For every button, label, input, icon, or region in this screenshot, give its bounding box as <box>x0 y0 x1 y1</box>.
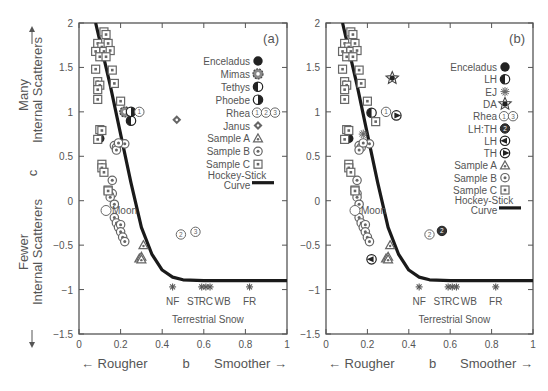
svg-text:2: 2 <box>264 109 268 116</box>
legend-marker <box>253 95 262 104</box>
legend-label: Phoebe <box>216 95 251 106</box>
data-point-sample-b <box>114 139 122 147</box>
y-tick-label: −1.5 <box>300 329 320 340</box>
x-tick-label: 0.4 <box>402 339 416 350</box>
data-point-sample-c <box>341 135 349 143</box>
legend-label: Rhea <box>226 108 250 119</box>
legend-marker <box>500 62 509 71</box>
data-point-sample-c <box>347 168 355 176</box>
x-tick-label: 0 <box>76 339 82 350</box>
x-label-smoother: Smoother → <box>214 356 287 371</box>
data-point-sample-c <box>98 127 106 135</box>
y-axis-title: c <box>25 169 40 176</box>
legend-marker <box>253 82 262 91</box>
x-label-smoother: Smoother → <box>460 356 533 371</box>
legend-marker <box>500 148 509 157</box>
data-point-tethys <box>126 116 135 125</box>
snow-label-fr: FR <box>243 296 256 307</box>
y-tick-label: 0.5 <box>59 151 73 162</box>
data-point-sample-b <box>353 176 361 184</box>
x-tick-label: 1 <box>284 339 290 350</box>
legend-label: Curve <box>224 180 251 191</box>
data-point-lh-left- <box>367 255 376 264</box>
y-label-fewer: Fewer <box>16 233 31 270</box>
data-point-sample-c <box>94 86 102 94</box>
snow-label-nf: NF <box>412 296 425 307</box>
data-point-sample-c <box>117 97 125 105</box>
terrestrial-snow-label: Terrestrial Snow <box>172 314 244 325</box>
svg-text:3: 3 <box>511 113 515 120</box>
svg-text:2: 2 <box>440 227 444 234</box>
data-point-terrestrial-snow <box>492 283 499 290</box>
snow-label-wb: WB <box>214 296 230 307</box>
legend-marker <box>499 97 511 109</box>
x-tick-label: 0.2 <box>114 339 128 350</box>
legend-marker <box>254 147 262 155</box>
panel-label: (b) <box>509 31 525 46</box>
legend-label: Sample C <box>206 159 250 170</box>
y-tick-label: 0 <box>67 196 73 207</box>
legend-label: Sample A <box>207 133 250 144</box>
svg-text:1: 1 <box>138 108 142 115</box>
snow-label-rc: RC <box>199 296 213 307</box>
data-point-sample-c <box>339 65 347 73</box>
figure: Many Internal Scatterers c Fewer Interna… <box>0 0 548 391</box>
data-point-terrestrial-snow <box>416 283 423 290</box>
legend-marker: 1 <box>499 112 508 121</box>
legend-marker <box>501 186 509 194</box>
x-label-rougher: ← Rougher <box>328 356 395 371</box>
legend-curve-swatch <box>252 181 274 184</box>
data-point-moon <box>101 205 111 215</box>
legend-marker <box>501 87 510 96</box>
data-point-sample-c <box>102 53 110 61</box>
data-point-lh-half- <box>367 108 376 117</box>
legend-marker <box>253 56 262 65</box>
moon-label: Moon <box>361 205 386 216</box>
data-point-sample-c <box>363 97 371 105</box>
x-axis-title: b <box>429 356 436 371</box>
data-point-sample-c <box>341 86 349 94</box>
legend-marker <box>254 134 263 142</box>
y-tick-label: −1 <box>62 285 74 296</box>
x-label-rougher: ← Rougher <box>81 356 148 371</box>
legend-marker <box>254 160 262 168</box>
legend-marker <box>501 174 509 182</box>
svg-text:2: 2 <box>428 231 432 238</box>
legend-label: Janus <box>223 121 250 132</box>
snow-label-wb: WB <box>461 296 477 307</box>
data-point-sample-c <box>349 53 357 61</box>
data-point-janus <box>172 115 181 124</box>
data-point-rhea: 3 <box>191 227 200 236</box>
x-tick-label: 0 <box>323 339 329 350</box>
data-point-lh-th: 2 <box>437 226 446 235</box>
panel-label: (a) <box>263 31 279 46</box>
legend-label: Sample B <box>454 173 498 184</box>
panel-a: 00.20.40.60.81−1.5−1−0.500.511.52123Moon… <box>53 18 290 371</box>
legend-label: Rhea <box>473 111 497 122</box>
data-point-sample-c <box>104 187 112 195</box>
y-tick-label: 2 <box>67 18 73 29</box>
y-label-internal-bottom: Internal Scatterers <box>30 198 45 305</box>
data-point-sample-c <box>349 31 357 39</box>
legend-label: TH <box>484 148 497 159</box>
y-label-internal-top: Internal Scatterers <box>30 36 45 143</box>
data-point-terrestrial-snow <box>246 283 253 290</box>
y-tick-label: 1.5 <box>59 62 73 73</box>
data-point-rhea: 1 <box>135 107 144 116</box>
y-tick-label: 2 <box>314 18 320 29</box>
legend-marker <box>253 69 263 79</box>
legend-label: LH <box>484 74 497 85</box>
snow-label-rc: RC <box>445 296 459 307</box>
svg-text:1: 1 <box>384 108 388 115</box>
data-point-sample-c <box>100 168 108 176</box>
y-tick-label: 1.5 <box>306 62 320 73</box>
data-point-terrestrial-snow <box>169 283 176 290</box>
data-point-th <box>392 111 401 120</box>
snow-label-fr: FR <box>489 296 502 307</box>
svg-text:2: 2 <box>179 231 183 238</box>
legend-label: Enceladus <box>450 62 497 73</box>
x-tick-label: 0.6 <box>443 339 457 350</box>
svg-text:2: 2 <box>503 125 507 132</box>
data-point-sample-c <box>341 95 349 103</box>
snow-label-nf: NF <box>166 296 179 307</box>
